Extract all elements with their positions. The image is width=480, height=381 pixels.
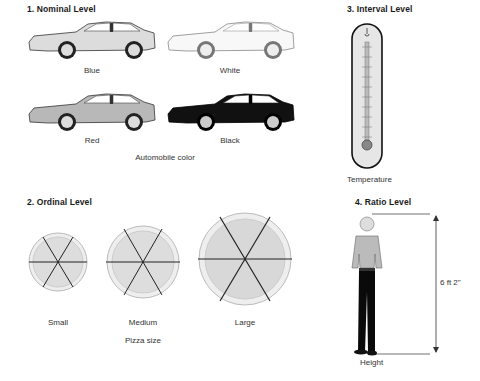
interval-level-title: 3. Interval Level <box>347 4 412 14</box>
pizza-small-icon <box>28 232 88 292</box>
thermometer-icon <box>350 22 386 170</box>
car-label-black: Black <box>210 136 250 145</box>
person-height-figure <box>350 212 460 362</box>
ratio-level-title: 4. Ratio Level <box>355 197 411 207</box>
height-measurement: 6 ft 2" <box>440 278 461 287</box>
pizza-label-medium: Medium <box>123 318 163 327</box>
car-icon <box>165 92 295 136</box>
car-icon <box>26 92 156 136</box>
ordinal-level-title: 2. Ordinal Level <box>27 197 92 207</box>
car-label-blue: Blue <box>72 66 112 75</box>
ratio-caption: Height <box>360 358 383 367</box>
nominal-level-title: 1. Nominal Level <box>27 4 96 14</box>
pizza-label-small: Small <box>38 318 78 327</box>
car-icon <box>165 20 295 64</box>
car-label-red: Red <box>72 136 112 145</box>
pizza-large-icon <box>198 212 292 306</box>
ordinal-caption: Pizza size <box>118 336 168 345</box>
pizza-label-large: Large <box>225 318 265 327</box>
car-icon <box>26 20 156 64</box>
car-label-white: White <box>210 66 250 75</box>
nominal-caption: Automobile color <box>120 153 210 162</box>
pizza-medium-icon <box>106 225 180 299</box>
interval-caption: Temperature <box>347 175 392 184</box>
